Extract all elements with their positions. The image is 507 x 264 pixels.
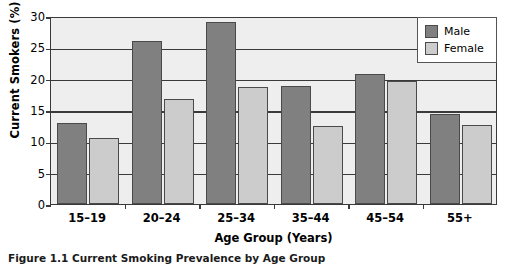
bar-female-6 [462,125,492,204]
legend-item-male: Male [425,23,490,40]
y-tick-label: 5 [15,167,45,181]
x-tick-label: 15–19 [50,211,125,225]
figure-caption: Figure 1.1 Current Smoking Prevalence by… [8,252,325,264]
y-tick-label: 30 [15,10,45,24]
legend-swatch-female-icon [425,42,438,55]
x-tick-label: 45–54 [348,211,423,225]
bar-male-3 [206,22,236,204]
x-tick-mark [274,204,275,209]
x-tick-mark [348,204,349,209]
bar-male-1 [57,123,87,204]
x-tick-label: 25–34 [199,211,274,225]
bar-male-2 [132,41,162,204]
x-tick-label: 20–24 [125,211,200,225]
bar-group [200,18,275,204]
x-tick-mark [125,204,126,209]
chart-legend: Male Female [417,17,497,63]
bar-group [126,18,201,204]
bar-female-5 [387,81,417,204]
bar-female-3 [238,87,268,204]
legend-label-male: Male [444,25,470,38]
x-tick-label: 35–44 [274,211,349,225]
y-tick-label: 20 [15,73,45,87]
y-tick-label: 15 [15,104,45,118]
x-tick-mark [423,204,424,209]
y-tick-label: 0 [15,198,45,212]
x-axis-title: Age Group (Years) [50,231,497,245]
bar-female-2 [164,99,194,204]
bar-male-5 [355,74,385,204]
legend-item-female: Female [425,40,490,57]
y-tick-mark [46,205,51,206]
x-tick-label: 55+ [423,211,498,225]
bar-male-6 [430,114,460,204]
bar-male-4 [281,86,311,204]
bar-group [275,18,350,204]
bar-female-4 [313,126,343,204]
legend-label-female: Female [444,42,484,55]
y-tick-label: 25 [15,41,45,55]
bar-female-1 [89,138,119,204]
legend-swatch-male-icon [425,25,438,38]
x-tick-mark [199,204,200,209]
bar-group [349,18,424,204]
bar-group [51,18,126,204]
y-tick-label: 10 [15,135,45,149]
